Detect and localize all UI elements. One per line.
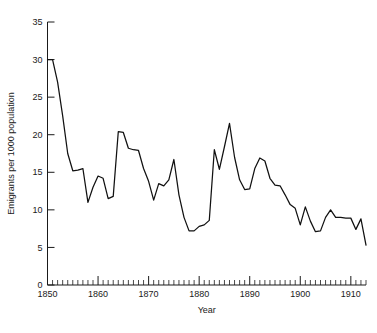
x-tick-group: 1850186018701880189019001910 bbox=[37, 276, 360, 299]
y-tick-group: 05101520253035 bbox=[32, 17, 54, 290]
x-minor-tick-group bbox=[53, 280, 366, 285]
x-tick-label-1850: 1850 bbox=[37, 289, 57, 299]
series-group bbox=[48, 60, 367, 246]
x-tick-label-1870: 1870 bbox=[139, 289, 159, 299]
x-tick-label-1880: 1880 bbox=[189, 289, 209, 299]
x-tick-label-1860: 1860 bbox=[88, 289, 108, 299]
emigration-rate-chart: 05101520253035 1850186018701880189019001… bbox=[0, 0, 377, 333]
x-tick-label-1900: 1900 bbox=[290, 289, 310, 299]
x-tick-label-1890: 1890 bbox=[240, 289, 260, 299]
y-tick-label-25: 25 bbox=[32, 92, 42, 102]
x-axis-title: Year bbox=[198, 305, 216, 315]
y-tick-label-30: 30 bbox=[32, 55, 42, 65]
y-axis-group: 05101520253035 bbox=[32, 17, 54, 290]
y-tick-label-20: 20 bbox=[32, 130, 42, 140]
y-tick-label-35: 35 bbox=[32, 17, 42, 27]
emigration-rate-line bbox=[48, 60, 367, 246]
y-tick-label-5: 5 bbox=[37, 243, 42, 253]
y-tick-label-10: 10 bbox=[32, 205, 42, 215]
chart-canvas: 05101520253035 1850186018701880189019001… bbox=[0, 0, 377, 333]
y-axis-title: Emigrants per 1000 population bbox=[6, 92, 16, 215]
x-axis-group: 1850186018701880189019001910 bbox=[37, 276, 366, 299]
y-tick-label-15: 15 bbox=[32, 167, 42, 177]
x-tick-label-1910: 1910 bbox=[341, 289, 361, 299]
